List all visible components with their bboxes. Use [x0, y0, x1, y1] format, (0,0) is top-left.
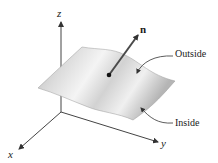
normal-base-point — [107, 73, 112, 78]
x-axis-label: x — [8, 149, 13, 160]
normal-vector-label: n — [140, 24, 146, 35]
z-axis-label: z — [57, 8, 61, 19]
inside-label: Inside — [175, 118, 199, 128]
y-axis — [61, 112, 158, 142]
outside-label: Outside — [175, 49, 206, 59]
y-axis-label: y — [161, 138, 166, 149]
x-axis — [19, 112, 61, 149]
oriented-surface-diagram — [0, 0, 218, 163]
